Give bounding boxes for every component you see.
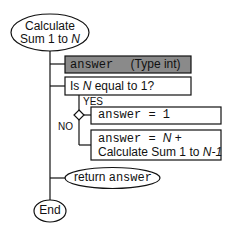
no-label: NO [58,120,73,133]
declaration-type: (Type int) [131,57,181,71]
return-terminal: return answer [74,171,152,185]
end-terminal: End [34,204,66,217]
yes-label: YES [83,95,103,108]
declaration-var: answer [70,58,113,72]
start-label-line2: Sum 1 to N [11,33,89,46]
condition-box: Is N equal to 1? [70,80,154,93]
start-terminal: Calculate Sum 1 to N [11,20,89,46]
yes-action-box: answer = 1 [98,109,170,122]
declaration-box: answer (Type int) [70,58,181,72]
no-action-box: answer = N + Calculate Sum 1 to N-1 [98,132,222,159]
